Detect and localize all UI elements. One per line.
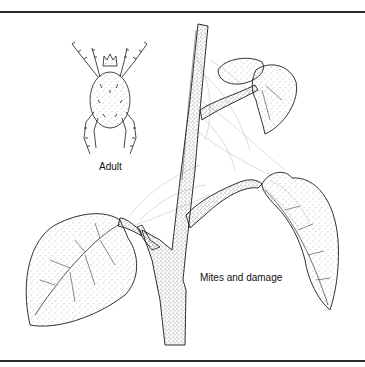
adult-label: Adult: [99, 161, 122, 172]
illustration: [0, 0, 365, 367]
right-leaf: [186, 172, 338, 310]
upper-branch: [200, 58, 297, 134]
leaf-stub: [137, 225, 160, 250]
mites-and-damage-label: Mites and damage: [200, 272, 282, 283]
adult-mite-icon: [72, 42, 147, 154]
left-leaf: [26, 214, 142, 326]
bottom-rule: [0, 360, 365, 362]
plant-stem: [142, 24, 208, 345]
